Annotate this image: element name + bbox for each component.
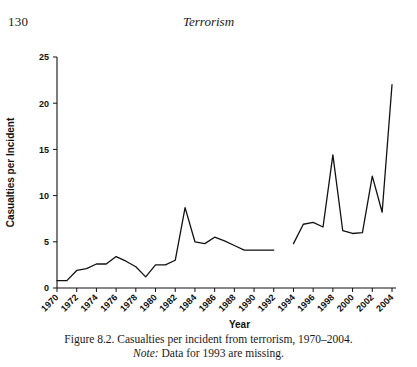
data-series-group xyxy=(57,85,392,281)
x-tick-label: 1980 xyxy=(138,292,159,313)
y-axis-title: Casualties per Incident xyxy=(5,117,16,227)
x-tick-label: 1970 xyxy=(39,292,60,313)
x-tick-label: 1978 xyxy=(118,292,139,313)
caption-line-1: Figure 8.2. Casualties per incident from… xyxy=(0,332,417,346)
page-header: 130 Terrorism xyxy=(0,14,417,32)
data-line xyxy=(57,208,274,281)
note-label: Note: xyxy=(133,347,159,359)
x-tick-label: 1972 xyxy=(59,292,80,313)
y-tick-label: 0 xyxy=(44,283,49,293)
data-line xyxy=(293,85,392,244)
y-tick-label: 10 xyxy=(39,191,49,201)
line-chart-svg: 0510152025 19701972197419761978198019821… xyxy=(0,40,417,330)
y-tick-label: 20 xyxy=(39,99,49,109)
x-tick-label: 1976 xyxy=(98,292,119,313)
x-axis-title: Year xyxy=(229,319,250,330)
x-axis: 1970197219741976197819801982198419861988… xyxy=(39,288,396,314)
figure-chart: 0510152025 19701972197419761978198019821… xyxy=(0,40,417,330)
note-text: Data for 1993 are missing. xyxy=(159,347,284,359)
x-tick-label: 2004 xyxy=(374,292,395,313)
x-tick-label: 1988 xyxy=(217,292,238,313)
x-tick-label: 1998 xyxy=(315,292,336,313)
caption-note: Note: Data for 1993 are missing. xyxy=(0,346,417,360)
y-tick-label: 5 xyxy=(44,237,49,247)
x-tick-label: 1982 xyxy=(157,292,178,313)
x-tick-label: 1992 xyxy=(256,292,277,313)
y-axis: 0510152025 xyxy=(39,52,57,293)
y-tick-label: 25 xyxy=(39,52,49,62)
x-tick-label: 2002 xyxy=(354,292,375,313)
y-tick-label: 15 xyxy=(39,145,49,155)
running-head: Terrorism xyxy=(0,14,417,30)
x-tick-label: 1990 xyxy=(236,292,257,313)
x-tick-label: 2000 xyxy=(335,292,356,313)
x-tick-label: 1974 xyxy=(79,292,100,313)
x-tick-label: 1986 xyxy=(197,292,218,313)
x-tick-label: 1984 xyxy=(177,292,198,313)
figure-caption: Figure 8.2. Casualties per incident from… xyxy=(0,332,417,360)
x-tick-label: 1996 xyxy=(295,292,316,313)
x-tick-label: 1994 xyxy=(276,292,297,313)
